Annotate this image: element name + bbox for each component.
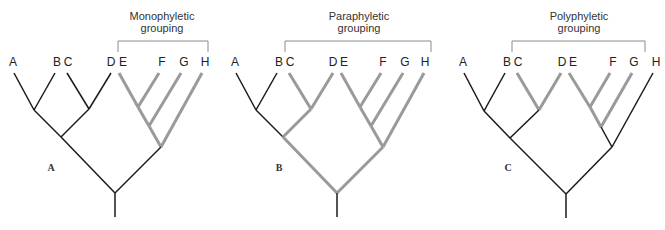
panel-label: C bbox=[504, 162, 511, 173]
branch-efgh-root bbox=[566, 147, 612, 194]
branch-ab-abcd bbox=[484, 111, 510, 138]
taxon-label-e: E bbox=[340, 55, 348, 69]
branch-h bbox=[612, 73, 653, 147]
panel-label: B bbox=[276, 162, 283, 173]
branch-b bbox=[256, 73, 277, 110]
taxon-label-c: C bbox=[286, 55, 295, 69]
panel-polyphyletic: Polyphyletic grouping A B C D E F G H C bbox=[459, 10, 660, 218]
branch-c bbox=[289, 73, 311, 109]
branch-a bbox=[14, 73, 34, 110]
branch-b bbox=[34, 73, 55, 110]
taxon-label-h: H bbox=[201, 55, 210, 69]
taxon-label-c: C bbox=[64, 55, 73, 69]
branch-ab-abcd bbox=[34, 110, 61, 137]
branch-cd-abcd bbox=[510, 110, 539, 138]
taxon-label-f: F bbox=[158, 55, 165, 69]
branch-ef-efg bbox=[590, 107, 601, 127]
taxon-label-a: A bbox=[459, 55, 467, 69]
grouping-bracket bbox=[512, 41, 645, 52]
branch-f bbox=[590, 73, 610, 107]
taxon-label-d: D bbox=[329, 55, 338, 69]
taxon-label-e: E bbox=[569, 55, 577, 69]
group-title-line2: grouping bbox=[338, 22, 381, 34]
branch-abcd-root bbox=[61, 137, 115, 193]
group-title-line1: Paraphyletic bbox=[329, 10, 390, 22]
branch-cd-abcd bbox=[61, 109, 89, 137]
grouping-bracket bbox=[285, 41, 431, 52]
branch-h bbox=[161, 73, 202, 147]
branch-e-upper bbox=[569, 73, 590, 107]
taxon-label-b: B bbox=[275, 55, 283, 69]
taxon-label-d: D bbox=[558, 55, 567, 69]
taxon-label-c: C bbox=[514, 55, 523, 69]
branch-d bbox=[539, 73, 561, 110]
group-title-line1: Polyphyletic bbox=[550, 10, 609, 22]
branch-d bbox=[311, 73, 333, 109]
branch-ab-abcd bbox=[256, 110, 283, 137]
branch-e-upper bbox=[119, 73, 138, 107]
taxon-label-d: D bbox=[107, 55, 116, 69]
group-title-line2: grouping bbox=[141, 22, 184, 34]
taxon-label-b: B bbox=[53, 55, 61, 69]
branch-a bbox=[464, 73, 484, 111]
taxon-label-f: F bbox=[609, 55, 616, 69]
taxon-label-g: G bbox=[629, 55, 638, 69]
group-title-line1: Monophyletic bbox=[130, 10, 195, 22]
branch-f bbox=[138, 73, 159, 107]
branch-cd-abcd bbox=[283, 109, 311, 137]
panel-label: A bbox=[47, 162, 55, 173]
branch-efgh-root bbox=[115, 147, 161, 193]
branch-c bbox=[517, 73, 539, 110]
branch-f bbox=[360, 73, 381, 107]
branch-ef-efg bbox=[360, 107, 371, 126]
group-title-line2: grouping bbox=[558, 22, 601, 34]
branch-e-upper bbox=[341, 73, 360, 107]
taxon-label-a: A bbox=[9, 55, 17, 69]
panel-monophyletic: Monophyletic grouping A B C D E F G H A bbox=[9, 10, 209, 217]
taxon-label-g: G bbox=[179, 55, 188, 69]
branch-efg-efgh bbox=[149, 126, 161, 147]
taxon-label-b: B bbox=[503, 55, 511, 69]
branch-c bbox=[67, 73, 89, 109]
branch-b bbox=[484, 73, 505, 111]
branch-abcd-root bbox=[510, 138, 566, 194]
taxon-label-f: F bbox=[379, 55, 386, 69]
phylogeny-figure: Monophyletic grouping A B C D E F G H A … bbox=[0, 0, 665, 230]
grouping-bracket bbox=[118, 41, 208, 52]
taxon-label-e: E bbox=[119, 55, 127, 69]
branch-abcd-root bbox=[283, 137, 337, 193]
branch-efgh-root bbox=[337, 147, 383, 193]
branch-efg-efgh bbox=[371, 126, 383, 147]
branch-a bbox=[236, 73, 256, 110]
branch-d bbox=[89, 73, 111, 109]
taxon-label-h: H bbox=[421, 55, 430, 69]
branch-ef-efg bbox=[138, 107, 149, 126]
taxon-label-g: G bbox=[400, 55, 409, 69]
taxon-label-a: A bbox=[231, 55, 239, 69]
branch-h bbox=[383, 73, 424, 147]
taxon-label-h: H bbox=[652, 55, 661, 69]
panel-paraphyletic: Paraphyletic grouping A B C D E F G H B bbox=[231, 10, 431, 217]
branch-efg-efgh bbox=[601, 127, 612, 147]
